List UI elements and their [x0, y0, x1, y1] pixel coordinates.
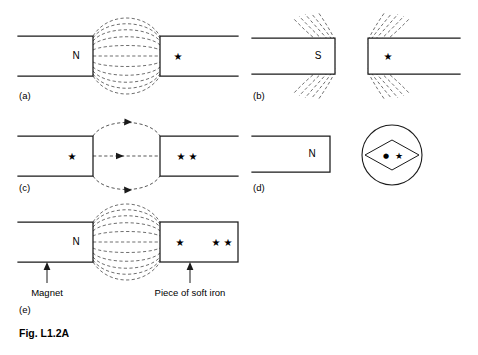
- panel-d-compass: ● ★: [362, 125, 422, 185]
- panel-b-magnet-bar: S: [252, 38, 335, 74]
- panel-b-star-mark: ★: [384, 51, 393, 62]
- compass-dot-mark: ●: [383, 152, 389, 160]
- figure-svg: N ★ (a): [0, 0, 478, 355]
- panel-c-right-bar: ★ ★: [160, 136, 238, 176]
- panel-e-star-left: ★: [176, 237, 185, 248]
- panel-a-star-mark: ★: [174, 51, 183, 62]
- panel-d: N ● ★ (d): [252, 125, 422, 193]
- panel-c: ★ ★ ★ (c): [18, 119, 238, 194]
- magnet-annotation-label: Magnet: [31, 287, 63, 298]
- soft-iron-annotation: Piece of soft iron: [155, 262, 226, 298]
- panel-b-pole-label: S: [315, 50, 322, 61]
- panel-b: S ★ (b): [252, 12, 460, 101]
- panel-d-pole-label: N: [308, 148, 315, 159]
- panel-c-arrowhead-lower: [124, 187, 132, 194]
- panel-e-star-right: ★ ★: [211, 237, 232, 248]
- panel-b-label: (b): [253, 90, 265, 101]
- soft-iron-annotation-label: Piece of soft iron: [155, 287, 226, 298]
- soft-iron-arrowhead: [187, 262, 194, 270]
- panel-e-field-lines: [93, 204, 160, 280]
- panel-a-pole-label: N: [72, 50, 79, 61]
- panel-c-left-star-mark: ★: [68, 151, 77, 162]
- magnet-annotation: Magnet: [31, 262, 63, 298]
- panel-e-pole-label: N: [72, 236, 79, 247]
- panel-d-magnet-bar: N: [252, 136, 330, 172]
- panel-c-field-lines: [93, 119, 160, 194]
- panel-e-label: (e): [19, 304, 31, 315]
- panel-a: N ★ (a): [18, 18, 238, 101]
- magnet-arrowhead: [44, 262, 51, 270]
- panel-e: N ★ ★ ★ Magnet Piece of soft iron (e): [18, 204, 238, 315]
- panel-c-arrowhead-middle: [116, 153, 124, 159]
- panel-a-label: (a): [19, 90, 31, 101]
- panel-d-label: (d): [253, 182, 265, 193]
- panel-a-field-lines: [93, 18, 160, 94]
- panel-c-right-star-mark: ★ ★: [176, 151, 197, 162]
- figure-caption: Fig. L1.2A: [19, 327, 70, 339]
- panel-c-arrowhead-upper: [124, 119, 132, 126]
- panel-c-label: (c): [19, 182, 30, 193]
- panel-e-magnet-bar: N: [18, 222, 93, 262]
- panel-e-soft-iron-bar: ★ ★ ★: [160, 222, 238, 262]
- panel-a-iron-bar: ★: [160, 36, 238, 76]
- panel-a-magnet-bar: N: [18, 36, 93, 76]
- figure-container: N ★ (a): [0, 0, 478, 355]
- panel-c-left-bar: ★: [18, 136, 93, 176]
- panel-b-iron-bar: ★: [368, 38, 460, 74]
- compass-star-mark: ★: [395, 151, 403, 161]
